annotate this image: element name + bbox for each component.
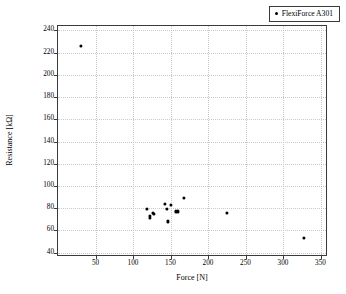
- y-tick-label: 180: [43, 93, 54, 100]
- y-tick: [54, 186, 58, 187]
- plot-area: 5010015020025030035040608010012014016018…: [57, 25, 327, 256]
- y-tick-label: 160: [43, 116, 54, 123]
- legend-box: FlexiForce A301: [269, 6, 340, 22]
- legend-label: FlexiForce A301: [282, 10, 333, 18]
- data-point: [149, 217, 152, 220]
- y-tick-label: 80: [47, 205, 54, 212]
- data-point: [176, 210, 179, 213]
- x-tick-label: 350: [315, 260, 326, 267]
- y-tick: [54, 53, 58, 54]
- y-tick-label: 120: [43, 160, 54, 167]
- y-tick: [54, 30, 58, 31]
- y-tick-label: 200: [43, 71, 54, 78]
- data-point: [165, 208, 168, 211]
- x-tick-label: 50: [92, 260, 99, 267]
- legend-marker-icon: [275, 12, 278, 15]
- x-tick-label: 200: [203, 260, 214, 267]
- x-axis-title: Force [N]: [57, 274, 327, 282]
- data-point: [152, 212, 155, 215]
- y-axis-title: Resistance [kΩ]: [6, 114, 14, 165]
- y-tick: [54, 119, 58, 120]
- data-point: [167, 220, 170, 223]
- data-point: [164, 202, 167, 205]
- y-tick-label: 240: [43, 27, 54, 34]
- y-tick-label: 60: [47, 227, 54, 234]
- y-tick: [54, 230, 58, 231]
- data-point: [80, 44, 83, 47]
- y-tick: [54, 142, 58, 143]
- y-tick-label: 140: [43, 138, 54, 145]
- y-tick: [54, 75, 58, 76]
- data-points-layer: [58, 26, 326, 255]
- y-tick: [54, 253, 58, 254]
- y-tick: [54, 97, 58, 98]
- data-point: [302, 237, 305, 240]
- scatter-plot-figure: 5010015020025030035040608010012014016018…: [0, 0, 346, 294]
- x-tick-label: 250: [240, 260, 251, 267]
- x-tick-label: 150: [165, 260, 176, 267]
- x-tick-label: 300: [278, 260, 289, 267]
- data-point: [145, 208, 148, 211]
- y-tick-label: 100: [43, 182, 54, 189]
- data-point: [169, 203, 172, 206]
- data-point: [225, 211, 228, 214]
- data-point: [182, 197, 185, 200]
- y-tick-label: 40: [47, 249, 54, 256]
- y-tick-label: 220: [43, 49, 54, 56]
- y-tick: [54, 164, 58, 165]
- y-tick: [54, 208, 58, 209]
- x-tick-label: 100: [128, 260, 139, 267]
